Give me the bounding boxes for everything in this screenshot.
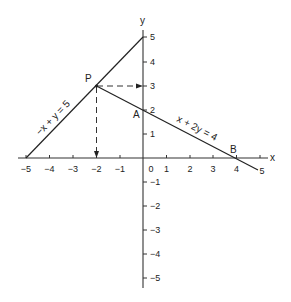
arrow-head-right-icon [136,84,143,89]
line-neg-x-plus-y-eq-5 [26,37,143,158]
svg-text:−2: −2 [91,164,101,174]
line-1-label: −x + y = 5 [34,98,73,138]
svg-text:−5: −5 [150,273,160,283]
svg-text:5: 5 [259,166,264,176]
svg-text:−5: −5 [21,164,31,174]
svg-text:−1: −1 [115,164,125,174]
point-p-marker [95,84,98,87]
point-b-label: B [230,144,237,155]
svg-text:−2: −2 [150,201,160,211]
coordinate-diagram: −5 −4 −3 −2 −1 0 1 2 3 4 5 5 4 3 2 1 −1 … [0,0,291,302]
svg-text:4: 4 [234,164,239,174]
svg-text:3: 3 [150,81,155,91]
svg-text:−3: −3 [150,225,160,235]
svg-text:4: 4 [150,57,155,67]
y-axis-label: y [140,15,145,26]
svg-text:−4: −4 [150,249,160,259]
x-axis-label: x [270,152,275,163]
svg-text:3: 3 [210,164,215,174]
svg-text:−1: −1 [150,177,160,187]
svg-text:5: 5 [150,32,155,42]
svg-text:1: 1 [164,164,169,174]
svg-text:−4: −4 [44,164,54,174]
point-p-label: P [85,73,92,84]
svg-text:−3: −3 [68,164,78,174]
svg-text:1: 1 [150,129,155,139]
svg-text:2: 2 [187,164,192,174]
line-x-plus-2y-eq-4 [97,86,259,170]
point-a-label: A [133,109,140,120]
svg-text:2: 2 [150,105,155,115]
arrow-head-down-icon [94,151,99,158]
svg-text:0: 0 [148,164,153,174]
